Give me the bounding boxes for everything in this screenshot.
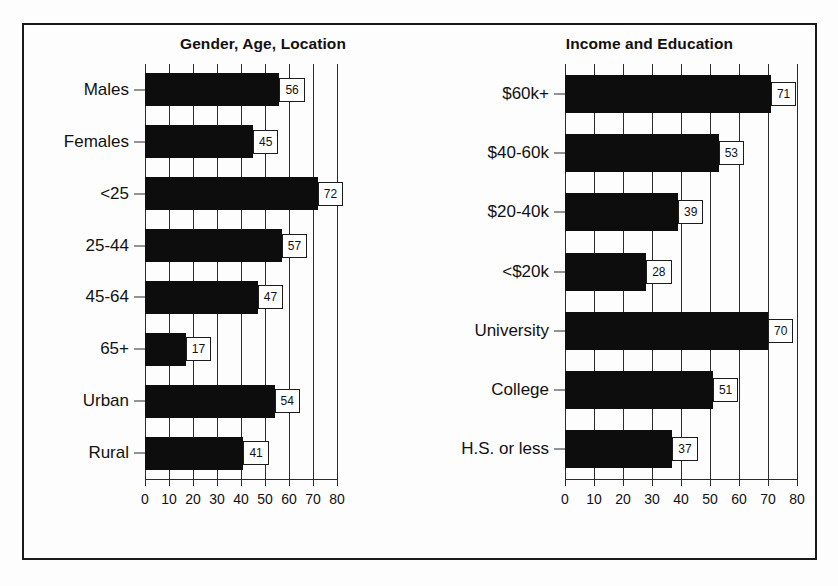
bar-row: 47 (145, 281, 337, 314)
category-label: 25-44 (29, 236, 129, 256)
figure-page: Gender, Age, Location 010203040506070805… (0, 0, 838, 586)
bar-value-label: 56 (279, 78, 304, 102)
chart-panel-gender-age-location: Gender, Age, Location 010203040506070805… (24, 25, 424, 558)
bar-value-label: 39 (678, 200, 703, 224)
x-axis-tick-label: 0 (561, 491, 569, 507)
bar-value-label: 57 (282, 234, 307, 258)
x-axis-tick-label: 70 (305, 491, 321, 507)
category-tick (554, 152, 565, 153)
category-tick (554, 449, 565, 450)
bar-value-label: 37 (672, 437, 697, 461)
chart-panel-income-education: Income and Education 0102030405060708071… (424, 25, 817, 558)
x-axis-tick-label: 80 (329, 491, 345, 507)
gridline (797, 64, 798, 479)
bar-row: 39 (565, 193, 797, 231)
x-axis-tick (739, 479, 740, 486)
bar (145, 125, 253, 158)
bar-row: 57 (145, 229, 337, 262)
x-axis-tick-label: 70 (760, 491, 776, 507)
bar (145, 385, 275, 418)
x-axis-tick (652, 479, 653, 486)
category-label: Females (29, 132, 129, 152)
bar (565, 75, 771, 113)
x-axis-tick-label: 50 (702, 491, 718, 507)
x-axis-tick (623, 479, 624, 486)
gridline (337, 64, 338, 479)
bar (565, 312, 768, 350)
category-tick (134, 193, 145, 194)
category-tick (134, 349, 145, 350)
category-tick (554, 390, 565, 391)
bar (145, 333, 186, 366)
x-axis-tick-label: 60 (281, 491, 297, 507)
x-axis-tick-label: 40 (673, 491, 689, 507)
x-axis-tick-label: 50 (257, 491, 273, 507)
figure-frame: Gender, Age, Location 010203040506070805… (22, 23, 817, 560)
bar-value-label: 54 (275, 389, 300, 413)
bar (565, 193, 678, 231)
category-label: Urban (29, 391, 129, 411)
category-label: $40-60k (427, 143, 549, 163)
category-tick (554, 271, 565, 272)
x-axis-tick-label: 30 (209, 491, 225, 507)
category-label: 45-64 (29, 287, 129, 307)
bar-row: 28 (565, 253, 797, 291)
bar (565, 134, 719, 172)
x-axis-tick (768, 479, 769, 486)
x-axis-tick-label: 60 (731, 491, 747, 507)
category-label: <25 (29, 184, 129, 204)
bar-value-label: 45 (253, 130, 278, 154)
x-axis-tick (337, 479, 338, 486)
bar (145, 281, 258, 314)
category-label: <$20k (427, 262, 549, 282)
x-axis-tick (145, 479, 146, 486)
category-label: College (427, 380, 549, 400)
bar-value-label: 71 (771, 82, 796, 106)
category-tick (134, 141, 145, 142)
x-axis-tick-label: 20 (185, 491, 201, 507)
x-axis-tick (265, 479, 266, 486)
x-axis-tick-label: 30 (644, 491, 660, 507)
bar (145, 177, 318, 210)
bar-row: 70 (565, 312, 797, 350)
x-axis-tick (710, 479, 711, 486)
category-tick (134, 401, 145, 402)
bar-value-label: 70 (768, 319, 793, 343)
category-label: 65+ (29, 339, 129, 359)
category-tick (134, 245, 145, 246)
x-axis-tick-label: 40 (233, 491, 249, 507)
bar-value-label: 28 (646, 260, 671, 284)
category-label: H.S. or less (427, 439, 549, 459)
bar-row: 72 (145, 177, 337, 210)
bar (565, 253, 646, 291)
x-axis-tick-label: 80 (789, 491, 805, 507)
category-tick (554, 93, 565, 94)
x-axis-tick (681, 479, 682, 486)
bar-row: 17 (145, 333, 337, 366)
x-axis-tick (313, 479, 314, 486)
bar-value-label: 47 (258, 285, 283, 309)
bar (565, 430, 672, 468)
x-axis-tick (289, 479, 290, 486)
x-axis-tick (169, 479, 170, 486)
chart-title-right: Income and Education (424, 35, 817, 53)
bar (145, 229, 282, 262)
x-axis-tick (797, 479, 798, 486)
x-axis-tick-label: 0 (141, 491, 149, 507)
bar (145, 437, 243, 470)
x-axis-tick (217, 479, 218, 486)
category-tick (554, 212, 565, 213)
x-axis-tick (565, 479, 566, 486)
category-tick (134, 453, 145, 454)
bar-row: 53 (565, 134, 797, 172)
bar-row: 71 (565, 75, 797, 113)
chart-title-left: Gender, Age, Location (24, 35, 424, 53)
x-axis-tick (594, 479, 595, 486)
bar-row: 56 (145, 73, 337, 106)
category-tick (134, 89, 145, 90)
category-label: Males (29, 80, 129, 100)
category-tick (134, 297, 145, 298)
bar-row: 37 (565, 430, 797, 468)
bar (145, 73, 279, 106)
plot-area-right: 0102030405060708071$60k+53$40-60k39$20-4… (565, 64, 797, 505)
